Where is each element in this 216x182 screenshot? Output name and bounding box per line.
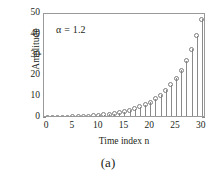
y-tick-label: 50 [20,8,40,18]
stem-line [161,95,162,116]
stem-line [192,49,193,116]
data-point-marker [153,96,158,101]
y-tick-label: 40 [20,29,40,39]
stem-line [186,61,187,116]
x-tick-label: 10 [86,120,110,130]
x-axis-label: Time index n [43,136,205,146]
stem-line [181,70,182,116]
y-tick-mark [202,117,205,118]
data-point-marker [179,68,184,73]
data-point-marker [107,112,112,116]
stem-line [197,36,198,116]
data-point-marker [137,104,142,109]
data-point-marker [189,47,194,52]
data-point-marker [174,76,179,81]
y-tick-mark [43,117,46,118]
stem-line [176,78,177,116]
x-tick-label: 30 [189,120,213,130]
x-tick-label: 25 [163,120,187,130]
data-point-marker [70,114,75,116]
x-tick-label: 15 [111,120,135,130]
data-point-marker [50,115,55,116]
data-point-marker [184,58,189,63]
data-point-marker [168,82,173,87]
stem-line [155,99,156,116]
data-point-marker [143,102,148,107]
figure-caption: (a) [0,155,216,171]
y-tick-label: 30 [20,50,40,60]
data-point-marker [148,100,153,105]
data-point-marker [101,112,106,116]
data-point-marker [194,33,199,38]
data-point-marker [112,111,117,116]
alpha-annotation: α = 1.2 [56,24,86,35]
data-point-marker [158,93,163,98]
x-tick-label: 20 [137,120,161,130]
data-point-marker [81,114,86,116]
data-point-marker [199,17,204,22]
y-tick-label: 10 [20,91,40,101]
data-point-marker [76,114,81,116]
y-tick-label: 20 [20,70,40,80]
data-point-marker [163,88,168,93]
data-point-marker [45,115,50,116]
figure-container: Amplitude 01020304050 051015202530 α = 1… [0,0,216,182]
stem-line [171,85,172,116]
stem-line [202,19,203,116]
x-tick-label: 0 [34,120,58,130]
x-tick-label: 5 [60,120,84,130]
stem-line [166,90,167,116]
